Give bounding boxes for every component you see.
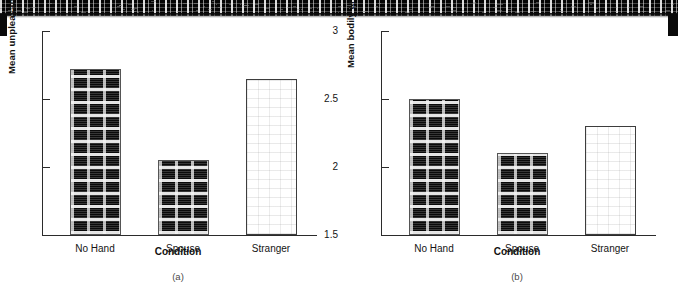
scan-speck <box>317 8 318 9</box>
scan-speck <box>216 4 217 5</box>
y-tick-3 <box>43 31 50 32</box>
chart-panel-a: Mean unpleasantness rating 3 2.5 2 1.5 N… <box>0 18 339 299</box>
scan-speck <box>353 6 356 7</box>
y-tick-label-3: 3 <box>298 25 338 36</box>
plot-area-b: 3 2.5 2 1.5 No Hand Spouse Stranger <box>381 31 651 236</box>
scan-speck <box>81 12 86 13</box>
scan-speck <box>17 7 18 8</box>
scan-speck <box>590 4 592 5</box>
scan-speck <box>497 10 502 11</box>
panel-caption-b: (b) <box>381 271 653 282</box>
scan-speck <box>8 10 11 11</box>
y-tick-2.5 <box>382 99 389 100</box>
scan-speck <box>152 10 153 11</box>
scan-speck <box>134 9 135 10</box>
scan-speck <box>346 5 351 6</box>
figure-page: Mean unpleasantness rating 3 2.5 2 1.5 N… <box>0 0 678 299</box>
scan-speck <box>531 11 536 12</box>
scan-speck <box>536 2 539 3</box>
scan-speck <box>287 7 290 8</box>
y-tick-3 <box>382 31 389 32</box>
bar-spouse <box>497 153 548 235</box>
scan-speck <box>446 6 450 7</box>
scan-speck <box>138 12 139 13</box>
scan-speck <box>212 1 214 2</box>
scan-speck <box>235 7 237 8</box>
scan-speck <box>218 7 221 8</box>
x-axis-label: Condition <box>381 246 653 257</box>
scan-speck <box>451 10 456 11</box>
scan-speck <box>615 11 617 12</box>
y-tick-1.5 <box>43 235 50 236</box>
scan-speck <box>177 11 182 12</box>
scan-speck <box>266 8 269 9</box>
y-tick-1.5 <box>382 235 389 236</box>
scan-speck <box>349 8 350 9</box>
y-tick-label-2: 2 <box>298 161 338 172</box>
scan-speck <box>672 4 674 5</box>
scan-speck <box>338 12 339 13</box>
scan-speck <box>500 4 503 5</box>
scan-speck <box>183 3 187 4</box>
y-axis-line <box>42 31 43 236</box>
scan-speck <box>131 9 134 10</box>
scan-speck <box>194 3 198 4</box>
scan-speck <box>244 5 249 6</box>
y-tick-label-1.5: 1.5 <box>298 229 338 240</box>
scan-speck <box>589 2 594 3</box>
scan-speck <box>128 4 132 5</box>
scan-speck <box>293 6 296 7</box>
panel-caption-a: (a) <box>42 271 314 282</box>
scan-speck <box>571 6 576 7</box>
scan-speck <box>375 6 378 7</box>
scan-speck <box>32 7 36 8</box>
scan-speck <box>453 7 457 8</box>
plot-area-a: 3 2.5 2 1.5 No Hand Spouse Stranger <box>42 31 312 236</box>
scan-speck <box>297 9 300 10</box>
scan-speck <box>229 4 231 5</box>
scan-speck <box>301 9 303 10</box>
chart-panel-b: Mean bodily arousal 3 2.5 2 1.5 No Hand … <box>339 18 678 299</box>
scan-speck <box>378 3 381 4</box>
scan-speck <box>280 9 283 10</box>
scan-speck <box>255 4 259 5</box>
bar-spouse <box>158 160 209 235</box>
scan-speck <box>515 12 520 13</box>
x-axis-line <box>381 235 656 236</box>
bar-no-hand <box>409 99 460 235</box>
scan-speck <box>628 7 630 8</box>
y-tick-2 <box>43 167 50 168</box>
scan-speck <box>16 10 21 11</box>
scan-speck <box>666 10 670 11</box>
scan-speck <box>134 11 136 12</box>
scan-speck <box>26 8 30 9</box>
scan-speck <box>123 9 125 10</box>
scan-speck <box>133 8 137 9</box>
scan-speck <box>559 11 563 12</box>
bar-stranger <box>585 126 636 235</box>
x-axis-label: Condition <box>42 246 314 257</box>
x-axis-line <box>42 235 317 236</box>
scan-speck <box>473 3 475 4</box>
scan-speck <box>493 7 497 8</box>
bar-no-hand <box>70 69 121 235</box>
y-axis-label: Mean bodily arousal <box>345 0 356 68</box>
scan-speck <box>196 10 198 11</box>
scan-speck <box>409 9 412 10</box>
scan-speck <box>560 9 561 10</box>
scan-speck <box>0 8 2 9</box>
scan-speck <box>338 6 342 7</box>
scan-speck <box>642 11 646 12</box>
scan-speck <box>48 3 52 4</box>
scan-speck <box>240 4 241 5</box>
bar-stranger <box>246 79 297 235</box>
scan-speck <box>596 8 598 9</box>
scan-speck <box>210 9 211 10</box>
scan-speck <box>23 12 27 13</box>
scan-speck <box>508 9 511 10</box>
scan-speck <box>117 6 120 7</box>
scan-speck <box>74 6 78 7</box>
scan-speck <box>405 12 410 13</box>
scan-speck <box>616 7 617 8</box>
scan-speck <box>431 7 432 8</box>
